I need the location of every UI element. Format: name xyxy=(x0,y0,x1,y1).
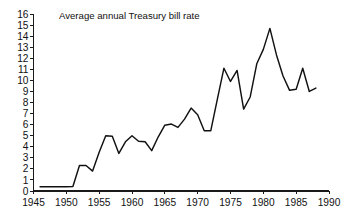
y-tick-label: 4 xyxy=(23,141,29,152)
y-tick-label: 2 xyxy=(23,163,29,174)
x-tick-label: 1970 xyxy=(186,197,209,208)
x-tick-label: 1990 xyxy=(318,197,341,208)
chart-figure: 012345678910111213141516 194519501955196… xyxy=(0,0,355,217)
y-tick-label: 12 xyxy=(17,53,29,64)
y-tick-label: 9 xyxy=(23,86,29,97)
y-tick-label: 5 xyxy=(23,130,29,141)
y-tick-label: 10 xyxy=(17,75,29,86)
x-tick-label: 1945 xyxy=(22,197,45,208)
y-tick-label: 14 xyxy=(17,31,29,42)
x-tick-label: 1950 xyxy=(55,197,78,208)
chart-background xyxy=(0,0,355,217)
y-tick-label: 16 xyxy=(17,9,29,20)
x-tick-label: 1985 xyxy=(285,197,308,208)
y-tick-label: 1 xyxy=(23,175,29,186)
chart-title: Average annual Treasury bill rate xyxy=(59,10,200,21)
y-tick-label: 3 xyxy=(23,152,29,163)
x-tick-label: 1955 xyxy=(88,197,111,208)
y-tick-label: 15 xyxy=(17,20,29,31)
x-tick-label: 1975 xyxy=(219,197,242,208)
y-tick-label: 13 xyxy=(17,42,29,53)
x-tick-label: 1965 xyxy=(153,197,176,208)
x-tick-label: 1980 xyxy=(252,197,275,208)
y-tick-label: 7 xyxy=(23,108,29,119)
treasury-bill-rate-line-chart: 012345678910111213141516 194519501955196… xyxy=(0,0,355,217)
y-tick-label: 6 xyxy=(23,119,29,130)
y-tick-label: 11 xyxy=(18,64,29,75)
x-tick-label: 1960 xyxy=(121,197,144,208)
y-tick-label: 0 xyxy=(23,186,29,197)
y-tick-label: 8 xyxy=(23,97,29,108)
